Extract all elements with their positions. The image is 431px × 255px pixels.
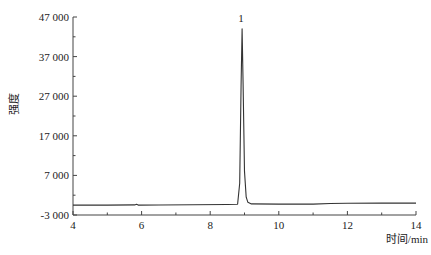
y-tick-label: 17 000 bbox=[39, 130, 70, 142]
x-tick-label: 8 bbox=[207, 219, 213, 231]
x-tick-label: 12 bbox=[342, 219, 353, 231]
y-tick-label: 47 000 bbox=[39, 11, 70, 23]
chromatogram-trace bbox=[73, 29, 416, 205]
x-tick-label: 4 bbox=[70, 219, 76, 231]
x-tick-label: 14 bbox=[411, 219, 423, 231]
peak-label: 1 bbox=[238, 12, 244, 24]
plot-area: 1 bbox=[73, 12, 416, 205]
x-tick-label: 10 bbox=[273, 219, 285, 231]
y-axis-title: 强度 bbox=[7, 93, 20, 115]
x-tick-label: 6 bbox=[139, 219, 145, 231]
y-tick-label: 37 000 bbox=[39, 51, 70, 63]
y-tick-label: 7 000 bbox=[44, 169, 69, 181]
y-tick-label: 27 000 bbox=[39, 90, 70, 102]
chromatogram-chart: -3 0007 00017 00027 00037 00047 00046810… bbox=[0, 0, 431, 255]
axes: -3 0007 00017 00027 00037 00047 00046810… bbox=[39, 11, 422, 231]
x-axis-title: 时间/min bbox=[386, 233, 429, 245]
y-tick-label: -3 000 bbox=[41, 209, 70, 221]
